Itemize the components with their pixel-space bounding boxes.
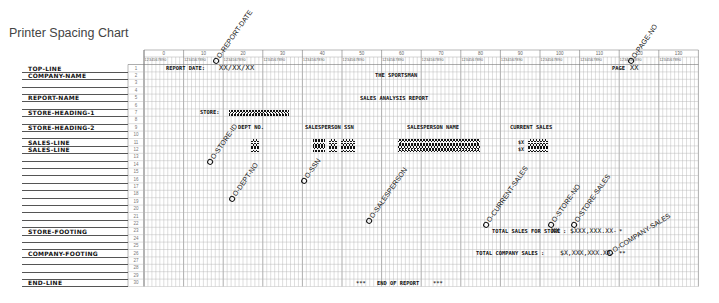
row-number: 25	[128, 242, 144, 249]
header-digits: 1234567890	[541, 57, 563, 64]
store-label: STORE:	[200, 109, 219, 116]
current-sales-mask-dollar: $X$X	[518, 139, 524, 153]
row-number: 12	[128, 146, 144, 153]
row-number: 26	[128, 250, 144, 257]
row-number: 24	[128, 235, 144, 242]
row-number: 28	[128, 264, 144, 271]
salesperson-name-mask	[398, 139, 480, 152]
row-label: STORE-FOOTING	[28, 228, 87, 235]
report-name: SALES ANALYSIS REPORT	[360, 95, 428, 102]
row-label: STORE-HEADING-1	[28, 109, 95, 116]
header-digits: 1234567890	[303, 57, 325, 64]
store-total-label: TOTAL SALES FOR STORE	[492, 228, 560, 235]
store-total-marker: *	[619, 228, 622, 235]
row-number: 7	[128, 109, 144, 116]
header-block-20: 20	[223, 50, 263, 57]
row-number: 19	[128, 198, 144, 205]
current-sales-mask	[528, 139, 548, 152]
header-digits: 1234567890	[224, 57, 246, 64]
row-number: 14	[128, 161, 144, 168]
header-block-60: 60	[382, 50, 422, 57]
ssn-mask-2	[329, 139, 337, 152]
row-number: 22	[128, 220, 144, 227]
header-digits: 1234567890	[501, 57, 523, 64]
end-of-report-text: END OF REPORT	[377, 280, 419, 287]
row-label: COMPANY-FOOTING	[28, 250, 98, 257]
row-number: 23	[128, 227, 144, 234]
header-block-40: 40	[302, 50, 342, 57]
row-number: 1	[128, 65, 144, 72]
end-right-marker: ***	[433, 280, 443, 287]
current-sales-header: CURRENT SALES	[510, 124, 552, 131]
row-number: 30	[128, 279, 144, 286]
company-total-marker: **	[619, 250, 626, 257]
row-number: 3	[128, 79, 144, 86]
row-number: 5	[128, 94, 144, 101]
header-block-100: 100	[540, 50, 580, 57]
row-number: 17	[128, 183, 144, 190]
row-number: 27	[128, 257, 144, 264]
store-mask	[229, 110, 289, 116]
row-label: STORE-HEADING-2	[28, 124, 95, 131]
report-date-label: REPORT DATE:	[166, 65, 205, 72]
page-mask: XX	[630, 65, 638, 72]
header-digits: 1234567890	[184, 57, 206, 64]
header-block-90: 90	[500, 50, 540, 57]
row-number: 10	[128, 131, 144, 138]
header-digits: 1234567890	[422, 57, 444, 64]
row-label: SALES-LINE	[28, 146, 70, 153]
header-block-130: 130	[659, 50, 699, 57]
store-total-colon: :	[563, 228, 566, 235]
row-label: TOP-LINE	[28, 65, 62, 72]
header-block-0: 0	[144, 50, 184, 57]
dept-no-mask	[251, 139, 259, 152]
header-digits: 1234567890	[659, 57, 681, 64]
store-total-store-mask: XX	[551, 228, 559, 235]
row-number: 13	[128, 153, 144, 160]
ssn-mask-1	[313, 139, 325, 152]
row-number: 9	[128, 124, 144, 131]
row-number: 16	[128, 176, 144, 183]
header-block-80: 80	[461, 50, 501, 57]
label-row: END-LINE	[22, 279, 128, 287]
row-number: 4	[128, 87, 144, 94]
row-number: 18	[128, 190, 144, 197]
header-digits: 1234567890	[580, 57, 602, 64]
row-number: 21	[128, 213, 144, 220]
ssn-mask-3	[341, 139, 355, 152]
company-name: THE SPORTSMAN	[375, 72, 417, 79]
ssn-header: SALESPERSON SSN	[305, 124, 354, 131]
salesperson-name-header: SALESPERSON NAME	[407, 124, 459, 131]
dept-no-header: DEPT NO.	[238, 124, 264, 131]
header-digits: 1234567890	[145, 57, 167, 64]
row-label: COMPANY-NAME	[28, 72, 86, 79]
header-block-30: 30	[263, 50, 303, 57]
header-block-50: 50	[342, 50, 382, 57]
row-number: 20	[128, 205, 144, 212]
row-number: 2	[128, 72, 144, 79]
header-block-70: 70	[421, 50, 461, 57]
header-digits: 1234567890	[263, 57, 285, 64]
row-number: 8	[128, 116, 144, 123]
header-digits: 1234567890	[343, 57, 365, 64]
header-digits: 1234567890	[382, 57, 404, 64]
row-number: 15	[128, 168, 144, 175]
end-left-marker: ***	[356, 280, 366, 287]
row-number: 6	[128, 102, 144, 109]
row-number: 29	[128, 272, 144, 279]
report-date-mask: XX/XX/XX	[219, 65, 254, 72]
row-label: REPORT-NAME	[28, 94, 79, 101]
row-label: SALES-LINE	[28, 139, 70, 146]
row-label: END-LINE	[28, 279, 62, 286]
page-label: PAGE	[612, 65, 625, 72]
store-total-amount-mask: $XXX,XXX.XX-	[570, 228, 617, 235]
header-block-110: 110	[580, 50, 620, 57]
header-digits: 1234567890	[461, 57, 483, 64]
company-total-label: TOTAL COMPANY SALES :	[476, 250, 544, 257]
row-number: 11	[128, 139, 144, 146]
